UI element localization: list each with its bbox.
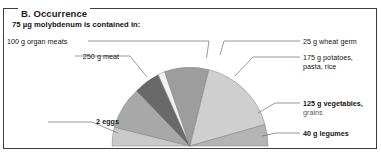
label-wheat-germ: 25 g wheat germ [303,38,357,47]
label-vegetables-line1: 125 g vegetables, [303,99,363,108]
panel-frame: B. Occurrence [3,8,377,149]
label-potatoes: 175 g potatoes, pasta, rice [303,54,353,71]
figure-panel-occurrence: B. Occurrence 75 µg molybdenum is contai… [0,0,381,157]
label-eggs: 2 eggs [7,118,119,127]
label-meat: 250 g meat [7,53,119,62]
label-vegetables: 125 g vegetables, grains [303,100,363,117]
panel-title: B. Occurrence [18,8,90,19]
label-potatoes-line1: 175 g potatoes, [303,53,353,62]
label-organ-meats: 100 g organ meats [7,38,67,47]
label-vegetables-line2: grains [303,109,363,118]
label-potatoes-line2: pasta, rice [303,63,353,72]
panel-subtitle: 75 µg molybdenum is contained in: [12,20,140,29]
label-legumes: 40 g legumes [303,130,349,139]
